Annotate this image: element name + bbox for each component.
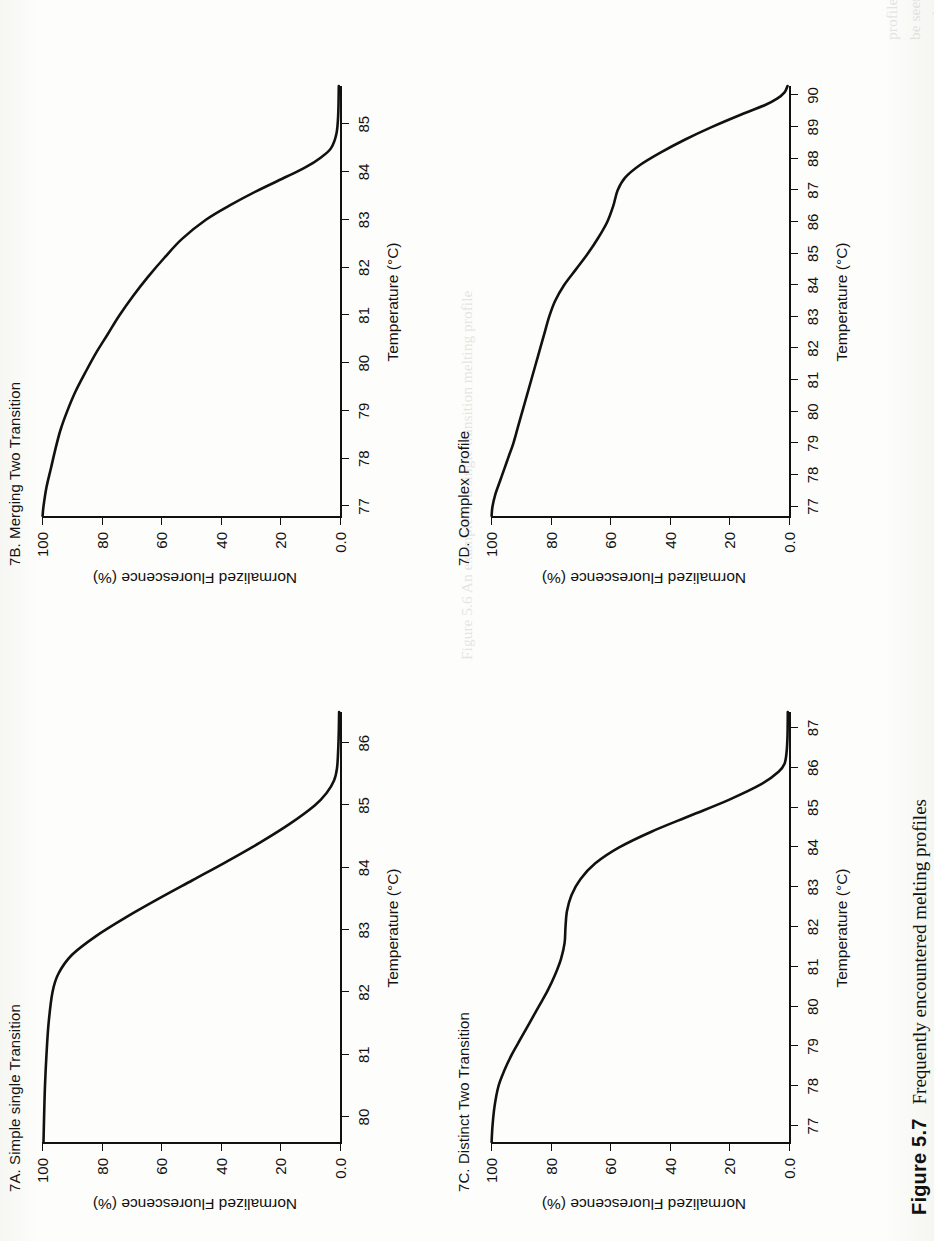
x-axis-title-7C: Temperature (°C) [833,868,851,987]
x-tick-label-7D-87: 87 [804,182,821,199]
x-tick-label-7D-82: 82 [804,340,821,357]
plot-area-7C: 77787980818283848586870.020406080100 [491,712,791,1144]
x-tick-label-7B-81: 81 [355,307,372,324]
y-tick-label-7D-100: 100 [483,532,500,557]
y-tick-label-7B-60: 60 [153,532,170,549]
x-axis-title-7D: Temperature (°C) [833,242,851,361]
y-axis-title-7B: Normalized Fluorescence (%) [93,569,297,587]
ghost-text-block-a: profiles. Both profiles are symmetric an… [880,0,934,40]
y-tick-label-7B-40: 40 [212,532,229,549]
y-tick-label-7D-20: 20 [721,532,738,549]
x-tick-label-7D-77: 77 [804,498,821,515]
x-tick-label-7A-82: 82 [355,984,372,1001]
x-axis-title-7B: Temperature (°C) [384,242,402,361]
y-tick-label-7B-0: 0.0 [332,532,349,553]
chart-title-7A: 7A. Simple single Transition [6,1004,23,1192]
x-tick-label-7C-84: 84 [804,839,821,856]
figure-number-label: Figure 5.7 [908,1119,930,1215]
x-tick-label-7B-79: 79 [355,403,372,420]
x-tick-label-7C-77: 77 [804,1118,821,1135]
melting-curve-svg-7C [491,708,793,1144]
y-tick-label-7A-0: 0.0 [332,1158,349,1179]
y-tick-label-7B-100: 100 [34,532,51,557]
y-tick-label-7D-60: 60 [602,532,619,549]
x-tick-label-7B-77: 77 [355,498,372,515]
y-axis-title-7D: Normalized Fluorescence (%) [542,569,746,587]
x-tick-label-7C-81: 81 [804,958,821,975]
melting-curve-path-7C [492,712,788,1142]
chart-panel-7D: 7D. Complex Profile 77787980818283848586… [455,50,885,610]
melting-curve-path-7D [492,86,788,516]
x-tick-label-7A-84: 84 [355,859,372,876]
x-tick-label-7C-80: 80 [804,998,821,1015]
x-tick-label-7D-80: 80 [804,403,821,420]
melting-curve-svg-7D [491,82,793,518]
chart-title-7B: 7B. Merging Two Transition [6,382,23,566]
y-tick-label-7C-60: 60 [602,1158,619,1175]
plot-area-7A: 808182838485860.020406080100 [42,712,342,1144]
x-tick-label-7A-83: 83 [355,922,372,939]
x-tick-label-7D-84: 84 [804,277,821,294]
x-tick-label-7A-80: 80 [355,1109,372,1126]
x-tick-label-7B-82: 82 [355,259,372,276]
x-axis-title-7A: Temperature (°C) [384,868,402,987]
y-tick-label-7C-80: 80 [542,1158,559,1175]
melting-curve-svg-7A [42,708,344,1144]
x-tick-label-7D-81: 81 [804,372,821,389]
y-tick-label-7A-100: 100 [34,1158,51,1183]
chart-panel-7C: 7C. Distinct Two Transition 777879808182… [455,676,885,1236]
chart-panel-7A: 7A. Simple single Transition 80818283848… [6,676,436,1236]
x-tick-label-7D-83: 83 [804,308,821,325]
x-tick-label-7B-78: 78 [355,450,372,467]
y-tick-label-7C-40: 40 [661,1158,678,1175]
plot-area-7B: 7778798081828384850.020406080100 [42,86,342,518]
melting-curve-svg-7B [42,82,344,518]
x-tick-label-7D-89: 89 [804,119,821,136]
chart-title-7D: 7D. Complex Profile [455,431,472,566]
x-tick-label-7C-82: 82 [804,919,821,936]
figure-caption-text: Frequently encountered melting profiles [909,799,930,1105]
y-tick-label-7D-40: 40 [661,532,678,549]
x-tick-label-7D-78: 78 [804,467,821,484]
x-tick-label-7A-86: 86 [355,735,372,752]
y-axis-title-7A: Normalized Fluorescence (%) [93,1195,297,1213]
y-axis-title-7C: Normalized Fluorescence (%) [542,1195,746,1213]
scanned-page: profiles. Both profiles are symmetric an… [0,0,934,1241]
x-tick-label-7B-83: 83 [355,211,372,228]
x-tick-label-7C-83: 83 [804,879,821,896]
y-tick-label-7B-20: 20 [272,532,289,549]
chart-panel-7B: 7B. Merging Two Transition 7778798081828… [6,50,436,610]
y-tick-label-7C-100: 100 [483,1158,500,1183]
x-tick-label-7D-90: 90 [804,87,821,104]
x-tick-label-7C-86: 86 [804,759,821,776]
y-tick-label-7A-60: 60 [153,1158,170,1175]
y-tick-label-7B-80: 80 [93,532,110,549]
melting-curve-path-7A [43,712,339,1142]
x-tick-label-7A-81: 81 [355,1046,372,1063]
x-tick-label-7C-78: 78 [804,1078,821,1095]
chart-title-7C: 7C. Distinct Two Transition [455,1012,472,1192]
y-tick-label-7A-40: 40 [212,1158,229,1175]
y-tick-label-7A-80: 80 [93,1158,110,1175]
y-tick-label-7D-0: 0.0 [781,532,798,553]
x-tick-label-7D-88: 88 [804,150,821,167]
x-tick-label-7B-84: 84 [355,164,372,181]
y-tick-label-7C-20: 20 [721,1158,738,1175]
melting-curve-path-7B [43,86,339,516]
x-tick-label-7A-85: 85 [355,797,372,814]
y-tick-label-7D-80: 80 [542,532,559,549]
x-tick-label-7D-79: 79 [804,435,821,452]
x-tick-label-7B-85: 85 [355,116,372,133]
x-tick-label-7C-85: 85 [804,799,821,816]
x-tick-label-7D-85: 85 [804,245,821,262]
y-tick-label-7A-20: 20 [272,1158,289,1175]
x-tick-label-7D-86: 86 [804,214,821,231]
plot-area-7D: 77787980818283848586878889900.0204060801… [491,86,791,518]
x-tick-label-7B-80: 80 [355,355,372,372]
x-tick-label-7C-79: 79 [804,1038,821,1055]
y-tick-label-7C-0: 0.0 [781,1158,798,1179]
figure-caption: Figure 5.7Frequently encountered melting… [908,335,931,1215]
x-tick-label-7C-87: 87 [804,720,821,737]
